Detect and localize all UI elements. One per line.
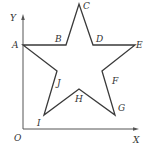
star-diagram: Y X O A B C D E F G H I J bbox=[0, 0, 152, 155]
vertex-label-i: I bbox=[36, 118, 41, 128]
vertex-label-c: C bbox=[83, 1, 90, 11]
x-axis-arrow-icon bbox=[133, 127, 139, 131]
vertex-label-d: D bbox=[95, 34, 103, 44]
vertex-label-f: F bbox=[111, 76, 119, 86]
vertex-label-b: B bbox=[54, 34, 62, 44]
y-axis-label: Y bbox=[10, 13, 17, 23]
vertex-label-a: A bbox=[11, 40, 19, 50]
origin-label: O bbox=[14, 133, 22, 143]
vertex-label-g: G bbox=[118, 103, 125, 113]
x-axis-label: X bbox=[132, 135, 140, 145]
y-axis-arrow-icon bbox=[21, 14, 25, 20]
vertex-labels: A B C D E F G H I J bbox=[11, 1, 143, 128]
axes bbox=[21, 14, 139, 131]
vertex-label-h: H bbox=[74, 94, 83, 104]
vertex-label-j: J bbox=[55, 78, 62, 88]
vertex-label-e: E bbox=[135, 40, 143, 50]
